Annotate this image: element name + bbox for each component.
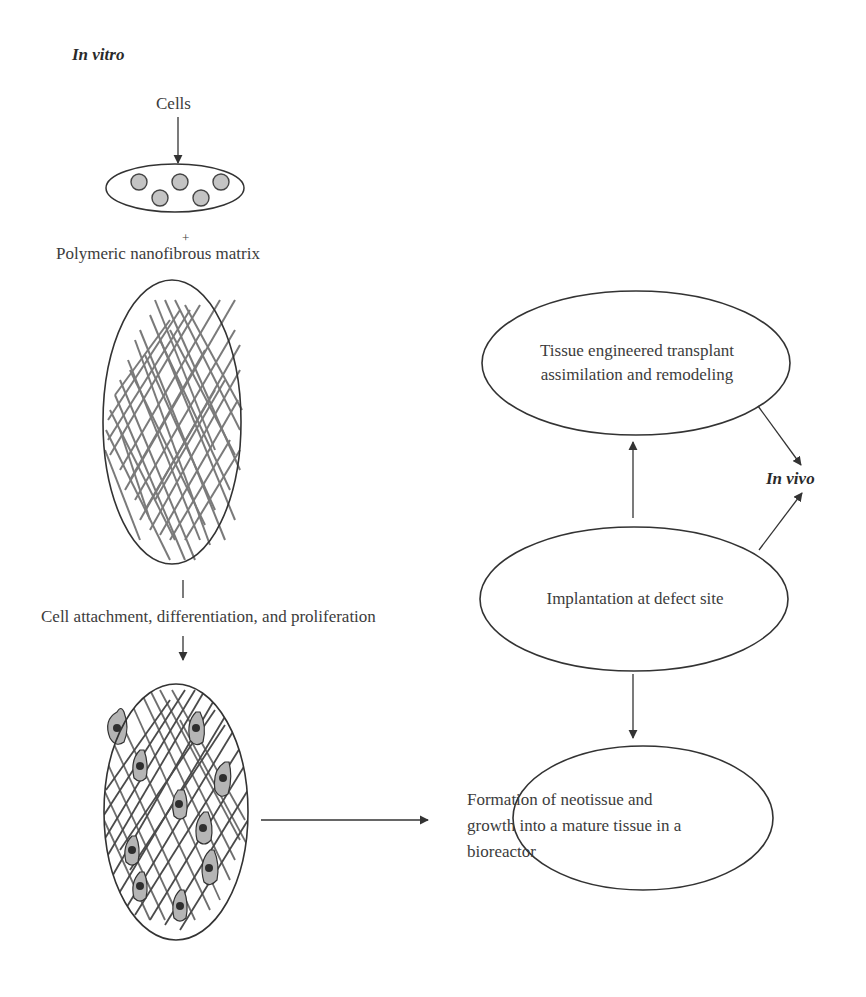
in-vitro-label: In vitro	[72, 43, 124, 67]
transplant-to-invivo-arrow	[758, 406, 801, 465]
formation-node-line-3: bioreactor	[467, 839, 681, 865]
formation-node-line-1: Formation of neotissue and	[467, 787, 681, 813]
cell-suspension	[106, 164, 244, 212]
transplant-node-line-1: Tissue engineered transplant	[482, 339, 792, 363]
formation-node: Formation of neotissue and growth into a…	[467, 787, 681, 865]
transplant-node-line-2: assimilation and remodeling	[482, 363, 792, 387]
in-vivo-label: In vivo	[766, 467, 815, 491]
process-step-label: Cell attachment, differentiation, and pr…	[41, 605, 376, 629]
cells-label: Cells	[156, 92, 191, 116]
diagram-canvas	[0, 0, 866, 997]
implantation-node: Implantation at defect site	[480, 587, 790, 611]
formation-node-line-2: growth into a mature tissue in a	[467, 813, 681, 839]
implantation-to-invivo-arrow	[759, 493, 802, 550]
matrix-label: Polymeric nanofibrous matrix	[56, 242, 260, 266]
nanofibrous-matrix	[103, 280, 242, 564]
transplant-node: Tissue engineered transplant assimilatio…	[482, 339, 792, 387]
cell-seeded-scaffold	[104, 684, 250, 940]
